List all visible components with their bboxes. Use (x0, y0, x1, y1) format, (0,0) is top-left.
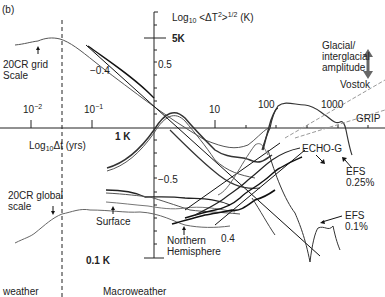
x-tick-label-0.01: 10−2 (23, 101, 42, 115)
surface-arrow (111, 206, 115, 210)
label-surface: Surface (96, 216, 130, 227)
y-ref-1k: 1 K (115, 131, 131, 142)
label-efs-01: EFS0.1% (345, 210, 368, 232)
label-efs-025: EFS0.25% (346, 166, 374, 188)
series-20cr-grid (15, 38, 268, 148)
label-vostok: Vostok (340, 79, 370, 90)
label-grip: GRIP (356, 113, 380, 124)
label-20cr-grid: 20CR gridScale (3, 59, 48, 81)
slope-label-neg04: −0.4 (90, 65, 110, 76)
panel-label: (b) (2, 4, 14, 15)
label-echo-g: ECHO-G (302, 143, 342, 154)
nh-arrow (182, 226, 186, 230)
x-tick-label-100: 100 (258, 99, 275, 110)
slope-label-04: 0.4 (221, 233, 235, 244)
y-ref-01k: 0.1 K (86, 255, 110, 266)
y-tick-label-pos: 0.5 (158, 59, 172, 70)
efs01-arrow (320, 220, 325, 224)
y-tick-label-neg: −0.5 (158, 174, 178, 185)
label-20cr-global: 20CR globalscale (8, 190, 63, 212)
structure-function-chart: (b) Log10 <ΔT2>1/2 (K) 5K 0.5 −0.5 1 K 0… (0, 0, 385, 297)
regime-label-macroweather: Macroweather (103, 286, 166, 297)
x-tick-label-0.1: 10−1 (84, 101, 103, 115)
x-tick-label-1000: 1000 (321, 99, 343, 110)
regime-label-weather: weather (3, 286, 39, 297)
x-tick-label-10: 10 (209, 104, 220, 115)
series-bump-1 (107, 113, 272, 168)
label-glacial-amplitude: Glacial/interglacialamplitude (322, 40, 370, 73)
y-axis-title: Log10 <ΔT2>1/2 (K) (172, 9, 253, 26)
y-ref-5k: 5K (172, 33, 185, 44)
series-efs-01 (268, 150, 340, 262)
label-northern-hemisphere: NorthernHemisphere (167, 235, 221, 257)
x-axis-title: Log10Δt (yrs) (29, 140, 86, 154)
grid-scale-arrow (36, 46, 40, 50)
